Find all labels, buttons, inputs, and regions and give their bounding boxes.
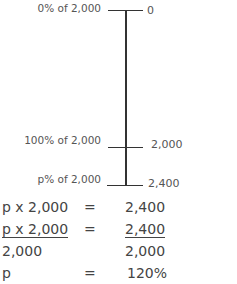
vertical-axis-line	[125, 10, 127, 186]
eq-row2-right: 2,400	[125, 221, 165, 238]
eq-row4-right: 120%	[127, 262, 167, 284]
eq-row3-left: 2,000	[2, 240, 42, 262]
tick-label-right-100: 2,000	[151, 138, 183, 151]
eq-row2-left: p x 2,000	[2, 221, 68, 238]
eq-row2-left-wrap: p x 2,000	[2, 218, 68, 240]
tick-0-percent	[108, 10, 143, 12]
tick-label-right-0: 0	[147, 4, 154, 17]
tick-label-left-0: 0% of 2,000	[37, 2, 101, 14]
eq-row2-op: =	[84, 218, 96, 240]
tick-label-left-p: p% of 2,000	[38, 173, 102, 185]
tick-label-right-p: 2,400	[148, 177, 180, 190]
eq-row1-op: =	[84, 196, 96, 218]
eq-row4-op: =	[84, 262, 96, 284]
eq-row2-right-wrap: 2,400	[125, 218, 165, 240]
eq-row3-right: 2,000	[125, 240, 165, 262]
eq-row1-right: 2,400	[125, 196, 165, 218]
tick-label-left-100: 100% of 2,000	[24, 134, 101, 146]
tick-100-percent	[108, 147, 143, 149]
tick-p-percent	[107, 185, 143, 187]
eq-row1-left: p x 2,000	[2, 196, 68, 218]
eq-row4-left: p	[2, 262, 11, 284]
